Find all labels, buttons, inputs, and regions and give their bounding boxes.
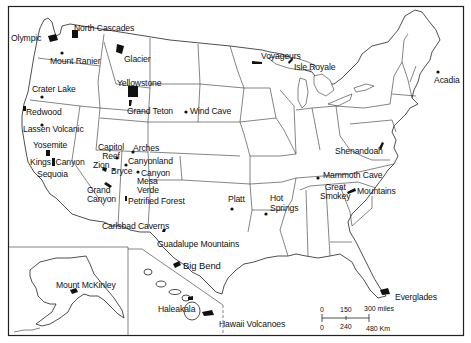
label-wind-cave: Wind Cave (190, 107, 231, 116)
label-voyageurs: Voyageurs (261, 52, 301, 61)
scale-miles-300: 300 miles (364, 305, 394, 312)
label-mesa-verde: Mesa Verde (137, 177, 159, 196)
label-yellowstone: Yellowstone (117, 79, 161, 88)
park-marker-crater-lake (40, 95, 43, 98)
park-marker-hawaii-volcanoes (202, 310, 214, 316)
label-shenandoah: Shenandoah (335, 147, 383, 156)
label-north-cascades: North Cascades (74, 24, 134, 33)
label-great-smokey: Great Smokey (320, 183, 350, 200)
label-carlsbad-caverns: Carlsbad Caverns (102, 222, 169, 231)
label-mount-mckinley: Mount McKinley (56, 281, 116, 290)
label-mount-rainier: Mount Ranier (50, 57, 100, 66)
label-arches: Arches (133, 144, 159, 153)
label-guadalupe-mountains: Guadalupe Mountains (157, 240, 239, 249)
label-hot-springs: Hot Springs (270, 193, 298, 214)
label-hawaii-volcanoes: Hawaii Volcanoes (219, 320, 285, 329)
scale-miles-0: 0 (320, 306, 324, 313)
label-lassen-volcanic: Lassen Volcanic (23, 125, 84, 134)
label-canyonlands: Canyonland (128, 157, 173, 166)
label-everglades: Everglades (395, 293, 437, 302)
alaska-inset (9, 247, 128, 336)
label-mammoth-cave: Mammoth Cave (323, 171, 382, 180)
park-marker-petrified-forest (125, 196, 127, 201)
label-zion: Zion (93, 161, 109, 170)
park-marker-hot-springs (264, 212, 267, 215)
label-acadia: Acadia (434, 76, 460, 85)
label-sequoia: Sequoia (37, 170, 68, 179)
scale-miles-150: 150 (340, 306, 352, 313)
park-marker-acadia (436, 70, 439, 73)
label-petrified-forest: Petrified Forest (128, 197, 185, 206)
park-marker-mesa-verde (136, 170, 139, 173)
label-kings-canyon: Kings Canyon (30, 158, 85, 167)
label-platt: Platt (228, 195, 245, 204)
scale-km-0: 0 (320, 324, 324, 331)
park-marker-mount-rainier (60, 51, 63, 54)
label-big-bend: Big Bend (183, 261, 221, 271)
label-yosemite: Yosemite (33, 141, 67, 150)
park-marker-yosemite (46, 150, 50, 156)
park-marker-wind-cave (184, 110, 187, 113)
label-isle-royale: Isle Royale (294, 63, 335, 72)
label-redwood: Redwood (26, 108, 62, 117)
label-bryce: Bryce (111, 167, 132, 176)
scale-km-240: 240 (340, 323, 352, 330)
label-mountains: Mountains (357, 187, 396, 196)
scale-km-480: 480 Km (366, 325, 390, 332)
label-olympic: Olympic (11, 34, 41, 43)
label-grand-teton: Grand Teton (127, 107, 173, 116)
label-glacier: Glacier (124, 55, 151, 64)
label-crater-lake: Crater Lake (32, 85, 76, 94)
label-grand-canyon: Grand Canyon (87, 186, 116, 205)
park-marker-platt (230, 207, 233, 210)
park-marker-mammoth-cave (316, 176, 319, 179)
label-haleakala: Haleakala (158, 305, 195, 314)
scale-bar (322, 314, 369, 322)
